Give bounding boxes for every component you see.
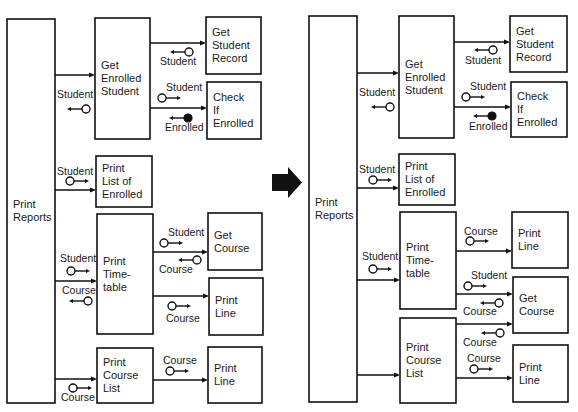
call-arrow-get-enrolled-student-to-get-student-record xyxy=(150,41,206,46)
module-label: Check xyxy=(517,90,549,102)
couple-label: Student xyxy=(465,54,501,66)
call-arrow-print-reports-to-print-course-list xyxy=(55,377,97,382)
data-couple-course: Course xyxy=(463,329,504,348)
call-arrow-print-reports-to-print-timetable xyxy=(357,278,400,283)
module-label: Enrolled xyxy=(102,188,142,200)
call-arrow-print-reports-to-print-course-list xyxy=(357,373,400,378)
data-couple-student: Student xyxy=(57,165,93,185)
open-circle-icon xyxy=(166,367,174,375)
module-label: Print xyxy=(214,362,237,374)
call-arrow-print-reports-to-print-timetable xyxy=(55,279,97,284)
module-print-line-a: PrintLine xyxy=(512,212,568,268)
module-label: List xyxy=(103,382,120,394)
module-label: Course xyxy=(103,369,138,381)
module-print-reports: PrintReports xyxy=(7,19,55,403)
module-label: Get xyxy=(214,229,232,241)
open-circle-icon xyxy=(369,176,377,184)
call-arrow-get-enrolled-student-to-check-if-enrolled xyxy=(150,106,207,111)
module-label: Print xyxy=(315,196,338,208)
module-print-timetable: PrintTime-table xyxy=(97,214,153,334)
module-label: Print xyxy=(103,255,126,267)
module-label: Enrolled xyxy=(405,71,445,83)
couple-label: Student xyxy=(362,250,398,262)
module-label: Record xyxy=(516,51,551,63)
call-arrow-print-timetable-to-print-line-a xyxy=(456,249,512,254)
module-label: Enrolled xyxy=(101,72,141,84)
couple-label: Student xyxy=(168,226,204,238)
module-print-reports: PrintReports xyxy=(309,16,357,402)
open-circle-icon xyxy=(66,177,74,185)
structure-chart-after: PrintReportsGetEnrolledStudentGetStudent… xyxy=(309,16,568,403)
module-label: If xyxy=(517,103,524,115)
call-arrow-print-timetable-to-print-line-a xyxy=(153,294,209,299)
module-label: Reports xyxy=(13,211,52,223)
data-couple-student: Student xyxy=(160,48,196,67)
call-arrow-get-enrolled-student-to-get-student-record xyxy=(454,40,510,45)
module-label: Time- xyxy=(103,268,131,280)
open-circle-icon xyxy=(489,46,497,54)
module-get-enrolled-student: GetEnrolledStudent xyxy=(399,16,454,138)
couple-label: Student xyxy=(166,81,202,93)
open-circle-icon xyxy=(160,239,168,247)
module-label: Student xyxy=(516,38,554,50)
module-label: table xyxy=(406,267,430,279)
couple-label: Student xyxy=(359,86,395,98)
data-couple-student: Student xyxy=(359,86,395,111)
module-print-list-of-enrolled: PrintList ofEnrolled xyxy=(96,156,152,207)
module-label: Course xyxy=(214,242,249,254)
module-label: Print xyxy=(406,241,429,253)
module-label: If xyxy=(213,104,220,116)
couple-label: Course xyxy=(61,391,95,403)
couple-label: Student xyxy=(57,165,93,177)
couple-label: Course xyxy=(463,336,497,348)
structure-chart-diagram: PrintReportsGetEnrolledStudentGetStudent… xyxy=(0,0,578,412)
data-couple-student: Student xyxy=(57,88,93,113)
module-print-list-of-enrolled: PrintList ofEnrolled xyxy=(399,154,455,205)
module-label: Print xyxy=(103,356,126,368)
control-flag-couple-enrolled: Enrolled xyxy=(165,114,204,133)
module-label: Student xyxy=(405,84,443,96)
call-arrow-get-enrolled-student-to-check-if-enrolled xyxy=(454,105,511,110)
couple-label: Course xyxy=(463,305,497,317)
control-flag-couple-enrolled: Enrolled xyxy=(469,112,508,132)
data-couple-student: Student xyxy=(465,46,501,66)
module-label: Enrolled xyxy=(517,116,557,128)
couple-label: Enrolled xyxy=(165,121,204,133)
data-couple-course: Course xyxy=(62,284,96,305)
right-arrow-icon xyxy=(272,167,302,198)
module-label: Get xyxy=(101,59,119,71)
module-label: Print xyxy=(405,160,428,172)
couple-label: Course xyxy=(464,225,498,237)
module-get-course: GetCourse xyxy=(208,213,262,270)
module-label: List of xyxy=(405,173,435,185)
module-get-student-record: GetStudentRecord xyxy=(206,17,261,74)
open-circle-icon xyxy=(496,329,504,337)
data-couple-student: Student xyxy=(158,81,202,102)
open-circle-icon xyxy=(67,267,75,275)
call-arrow-print-reports-to-get-enrolled-student xyxy=(357,71,399,76)
module-label: Print xyxy=(518,227,541,239)
module-label: Print xyxy=(519,361,542,373)
data-couple-student: Student xyxy=(462,80,506,101)
call-arrow-print-reports-to-get-enrolled-student xyxy=(55,73,95,78)
module-print-timetable: PrintTime-table xyxy=(400,212,456,309)
data-couple-course: Course xyxy=(166,302,200,324)
couple-label: Student xyxy=(60,252,96,264)
module-label: Line xyxy=(215,307,236,319)
open-circle-icon xyxy=(168,302,176,310)
module-label: Get xyxy=(516,25,534,37)
module-label: Reports xyxy=(315,209,354,221)
data-couple-student: Student xyxy=(464,269,507,290)
module-print-line-b: PrintLine xyxy=(208,347,262,403)
data-couple-course: Course xyxy=(467,352,501,373)
open-circle-icon xyxy=(82,105,90,113)
couple-label: Course xyxy=(62,284,96,296)
data-couple-student: Student xyxy=(60,252,96,275)
structure-chart-before: PrintReportsGetEnrolledStudentGetStudent… xyxy=(7,17,263,403)
couple-label: Course xyxy=(166,312,200,324)
module-label: Student xyxy=(101,85,139,97)
module-print-line-a: PrintLine xyxy=(209,278,263,335)
module-print-course-list: PrintCourseList xyxy=(97,348,153,403)
module-label: Enrolled xyxy=(213,117,253,129)
module-label: Get xyxy=(519,292,537,304)
